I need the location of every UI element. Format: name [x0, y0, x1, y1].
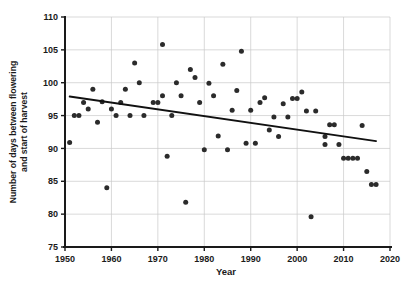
data-point — [276, 134, 281, 139]
data-point — [355, 156, 360, 161]
data-point — [216, 133, 221, 138]
data-point — [299, 89, 304, 94]
x-axis-title: Year — [216, 266, 236, 277]
data-point — [160, 42, 165, 47]
data-point — [290, 96, 295, 101]
scatter-chart: 19501960197019801990200020102020 7580859… — [0, 0, 412, 284]
data-point — [128, 113, 133, 118]
data-point — [327, 122, 332, 127]
x-tick-label: 2000 — [287, 254, 307, 264]
x-tick-label: 1970 — [148, 254, 168, 264]
data-point — [109, 107, 114, 112]
data-point — [230, 108, 235, 113]
data-point — [165, 154, 170, 159]
data-point — [225, 147, 230, 152]
data-point — [81, 100, 86, 105]
y-tick-label: 95 — [48, 111, 58, 121]
data-point — [253, 141, 258, 146]
x-tick-label: 1980 — [194, 254, 214, 264]
y-tick-label: 85 — [48, 176, 58, 186]
data-point — [350, 156, 355, 161]
data-point — [95, 120, 100, 125]
data-point — [304, 108, 309, 113]
data-point — [271, 114, 276, 119]
chart-background — [0, 0, 412, 284]
x-tick-label: 1950 — [55, 254, 75, 264]
data-point — [183, 200, 188, 205]
chart-canvas: 19501960197019801990200020102020 7580859… — [0, 0, 412, 284]
x-tick-label: 2010 — [334, 254, 354, 264]
data-point — [202, 147, 207, 152]
data-point — [281, 101, 286, 106]
data-point — [309, 214, 314, 219]
data-point — [360, 123, 365, 128]
x-tick-label: 1990 — [241, 254, 261, 264]
data-point — [211, 93, 216, 98]
y-axis-title-line: and start of harvest — [19, 92, 29, 172]
data-point — [160, 93, 165, 98]
data-point — [141, 113, 146, 118]
data-point — [137, 80, 142, 85]
data-point — [323, 142, 328, 147]
data-point — [123, 87, 128, 92]
data-point — [374, 182, 379, 187]
data-point — [369, 182, 374, 187]
data-point — [155, 100, 160, 105]
data-point — [332, 122, 337, 127]
data-point — [90, 87, 95, 92]
data-point — [67, 140, 72, 145]
data-point — [336, 142, 341, 147]
y-axis-title-line: Number of days between flowering — [8, 61, 18, 203]
x-tick-label: 2020 — [380, 254, 400, 264]
data-point — [174, 80, 179, 85]
data-point — [220, 62, 225, 67]
data-point — [341, 156, 346, 161]
data-point — [114, 113, 119, 118]
y-tick-label: 105 — [43, 45, 58, 55]
y-tick-label: 80 — [48, 209, 58, 219]
data-point — [346, 156, 351, 161]
y-tick-label: 90 — [48, 144, 58, 154]
data-point — [151, 100, 156, 105]
y-tick-label: 110 — [43, 12, 58, 22]
data-point — [244, 141, 249, 146]
data-point — [206, 81, 211, 86]
data-point — [76, 113, 81, 118]
data-point — [104, 185, 109, 190]
data-point — [193, 75, 198, 80]
data-point — [86, 107, 91, 112]
data-point — [262, 95, 267, 100]
y-tick-label: 75 — [48, 242, 58, 252]
data-point — [239, 49, 244, 54]
data-point — [188, 67, 193, 72]
data-point — [197, 100, 202, 105]
data-point — [364, 169, 369, 174]
data-point — [295, 96, 300, 101]
data-point — [179, 93, 184, 98]
data-point — [248, 108, 253, 113]
data-point — [234, 88, 239, 93]
data-point — [169, 113, 174, 118]
data-point — [258, 100, 263, 105]
x-tick-label: 1960 — [101, 254, 121, 264]
y-tick-label: 100 — [43, 78, 58, 88]
data-point — [313, 108, 318, 113]
data-point — [285, 114, 290, 119]
data-point — [132, 61, 137, 66]
data-point — [267, 128, 272, 133]
data-point — [72, 113, 77, 118]
